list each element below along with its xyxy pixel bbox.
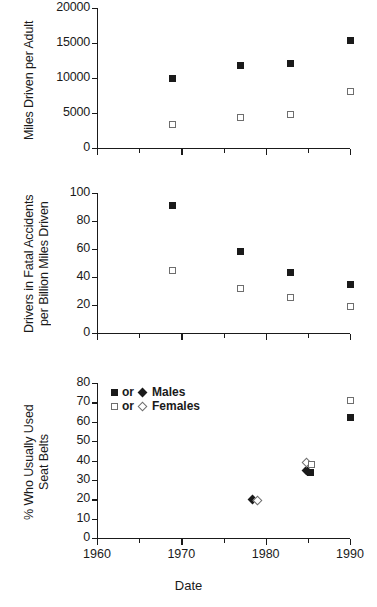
x-tick-label: 1980 <box>236 547 296 561</box>
x-tick-label: 1970 <box>151 547 211 561</box>
y-tick-label: 60 <box>44 242 90 255</box>
panel-fatal-accidents: Drivers in Fatal Accidents per Billion M… <box>0 193 377 343</box>
x-tick-major <box>181 149 182 155</box>
legend-label: Females <box>152 399 200 413</box>
data-point-males-filled-square <box>169 75 176 82</box>
legend-label: Males <box>152 385 185 399</box>
panel1-plot-area: 05000100001500020000 <box>0 8 377 158</box>
y-tick <box>92 441 97 442</box>
x-tick-major <box>350 539 351 545</box>
legend-item: orFemales <box>109 399 200 413</box>
y-tick-label: 40 <box>44 454 90 467</box>
y-tick <box>92 277 97 278</box>
y-tick-label: 5000 <box>44 106 90 119</box>
data-point-males-filled-square <box>347 281 354 288</box>
data-point-males-filled-square <box>287 60 294 67</box>
legend-symbol-filled-square-icon <box>109 386 121 398</box>
data-point-males-filled-square <box>237 62 244 69</box>
y-axis-line <box>97 193 98 333</box>
data-point-females-open-square <box>347 303 354 310</box>
x-tick-major <box>97 539 98 545</box>
y-tick-label: 0 <box>44 326 90 339</box>
data-point-females-open-square <box>237 114 244 121</box>
y-tick-label: 20 <box>44 298 90 311</box>
x-tick-minor <box>139 539 140 543</box>
legend-or-text: or <box>122 399 134 413</box>
data-point-filled-diamond <box>138 388 148 398</box>
data-point-filled-square <box>111 389 118 396</box>
x-tick-minor <box>224 539 225 543</box>
y-tick <box>92 305 97 306</box>
y-axis-line <box>97 383 98 538</box>
y-tick <box>92 480 97 481</box>
x-tick-major <box>181 334 182 340</box>
x-tick-major <box>266 149 267 155</box>
data-point-males-filled-square <box>237 248 244 255</box>
figure-root: Miles Driven per Adult 05000100001500020… <box>0 0 377 607</box>
x-tick-major <box>350 149 351 155</box>
x-tick-major <box>350 334 351 340</box>
y-tick-label: 10 <box>44 512 90 525</box>
y-tick-label: 0 <box>44 141 90 154</box>
data-point-males-filled-square <box>347 414 354 421</box>
y-tick <box>92 461 97 462</box>
y-tick <box>92 43 97 44</box>
y-tick <box>92 113 97 114</box>
y-tick-label: 50 <box>44 434 90 447</box>
data-point-females-open-square <box>237 285 244 292</box>
x-tick-label: 1990 <box>320 547 377 561</box>
y-tick <box>92 249 97 250</box>
y-tick-label: 30 <box>44 473 90 486</box>
y-axis-line <box>97 8 98 148</box>
x-tick-label: 1960 <box>67 547 127 561</box>
data-point-females-open-square <box>287 294 294 301</box>
x-tick-minor <box>308 149 309 153</box>
y-tick-label: 100 <box>44 186 90 199</box>
x-axis-title: Date <box>0 578 377 593</box>
data-point-females-open-square <box>308 461 315 468</box>
y-tick <box>92 78 97 79</box>
panel2-plot-area: 020406080100 <box>0 193 377 343</box>
data-point-males-filled-square <box>347 37 354 44</box>
y-tick <box>92 422 97 423</box>
data-point-females-open-square <box>347 397 354 404</box>
panel-seat-belts: % Who Usually Used Seat Belts 0102030405… <box>0 383 377 548</box>
y-tick-label: 70 <box>44 395 90 408</box>
data-point-males-filled-square <box>169 202 176 209</box>
legend-symbol-open-diamond-icon <box>137 400 149 412</box>
y-tick <box>92 519 97 520</box>
x-tick-minor <box>224 149 225 153</box>
data-point-females-open-square <box>169 267 176 274</box>
x-tick-minor <box>308 539 309 543</box>
y-tick-label: 15000 <box>44 36 90 49</box>
data-point-males-filled-square <box>307 469 314 476</box>
y-tick <box>92 402 97 403</box>
y-tick-label: 0 <box>44 531 90 544</box>
x-tick-major <box>181 539 182 545</box>
data-point-open-square <box>111 403 118 410</box>
y-tick <box>92 221 97 222</box>
x-tick-minor <box>308 334 309 338</box>
legend-symbol-open-square-icon <box>109 400 121 412</box>
y-tick-label: 10000 <box>44 71 90 84</box>
x-tick-minor <box>224 334 225 338</box>
legend-or-text: or <box>122 385 134 399</box>
x-tick-minor <box>139 149 140 153</box>
y-tick-label: 40 <box>44 270 90 283</box>
y-tick-label: 20 <box>44 492 90 505</box>
legend: orMalesorFemales <box>109 385 200 413</box>
x-tick-major <box>266 539 267 545</box>
y-tick <box>92 193 97 194</box>
x-tick-major <box>97 149 98 155</box>
panel-miles-driven: Miles Driven per Adult 05000100001500020… <box>0 8 377 158</box>
data-point-females-open-square <box>169 121 176 128</box>
y-tick-label: 80 <box>44 376 90 389</box>
x-tick-major <box>97 334 98 340</box>
legend-symbol-filled-diamond-icon <box>137 386 149 398</box>
y-tick-label: 80 <box>44 214 90 227</box>
x-tick-minor <box>139 334 140 338</box>
data-point-females-open-square <box>287 111 294 118</box>
data-point-males-filled-square <box>287 269 294 276</box>
data-point-open-diamond <box>138 402 148 412</box>
x-tick-major <box>266 334 267 340</box>
